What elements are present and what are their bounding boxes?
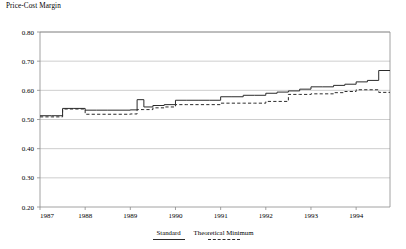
x-tick-label: 1987 [40,212,55,220]
y-tick-label: 0.80 [22,29,35,37]
legend-swatch-dashed [208,239,240,240]
x-tick-label: 1990 [168,212,183,220]
x-tick-label: 1991 [214,212,229,220]
legend-entry-2: Theoretical Minimum [194,228,254,240]
y-tick-label: 0.60 [22,87,35,95]
chart-legend: StandardTheoretical Minimum [0,228,406,240]
data-series-layer [40,71,390,117]
y-tick-label: 0.40 [22,145,35,153]
y-tick-label: 0.30 [22,174,35,182]
legend-swatch-solid [153,239,185,240]
plot-area: 0.200.300.400.500.600.700.80 19871988198… [0,0,406,249]
y-axis-ticks: 0.200.300.400.500.600.700.80 [22,29,40,212]
x-tick-label: 1993 [304,212,319,220]
y-tick-label: 0.70 [22,58,35,66]
x-axis-ticks: 19871988198919901991199219931994 [40,207,364,220]
legend-label: Standard [153,228,185,237]
x-tick-label: 1988 [78,212,93,220]
series-line-2 [40,90,390,117]
x-tick-label: 1992 [259,212,274,220]
y-tick-label: 0.20 [22,204,35,212]
x-tick-label: 1989 [123,212,138,220]
legend-label: Theoretical Minimum [194,228,254,237]
gridlines [40,61,390,178]
legend-entry-1: Standard [153,228,185,240]
y-tick-label: 0.50 [22,116,35,124]
price-cost-margin-chart: Price-Cost Margin 0.200.300.400.500.600.… [0,0,406,249]
x-tick-label: 1994 [349,212,364,220]
